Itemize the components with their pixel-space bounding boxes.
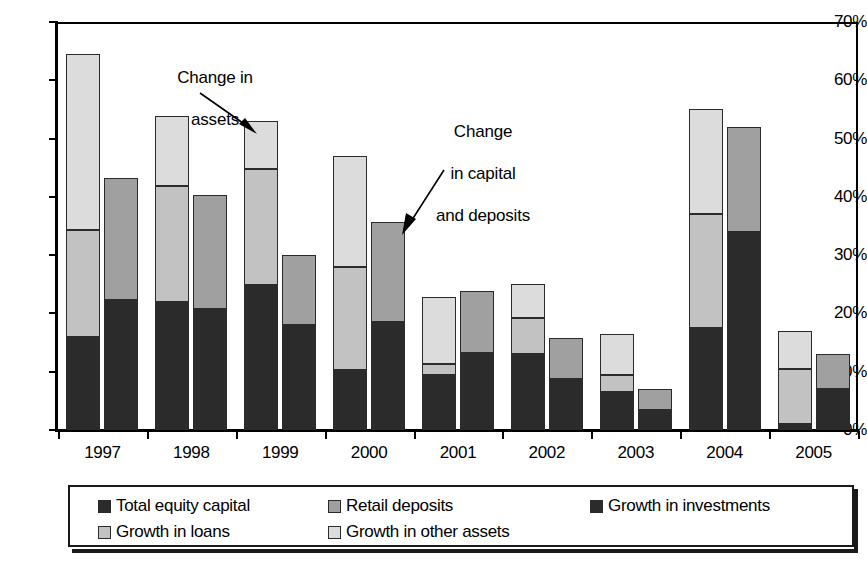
bar-1998-assets[interactable] [155,116,189,430]
bar-2004-assets[interactable] [689,109,723,430]
annotation-capital-arrow [392,165,482,245]
bar-segment-retail-deposits[interactable] [460,291,494,353]
bar-segment-retail-deposits[interactable] [104,178,138,300]
bar-segment-growth-in-other-assets[interactable] [689,109,723,214]
x-axis-tick-label: 2004 [680,444,770,462]
bar-segment-growth-in-loans[interactable] [333,267,367,370]
bar-segment-growth-in-loans[interactable] [600,375,634,392]
chart-root: 0%10%20%30%40%50%60%70% 1997199819992000… [0,0,867,561]
bar-segment-growth-in-loans[interactable] [66,230,100,337]
bar-segment-growth-in-loans[interactable] [689,214,723,328]
bar-segment-growth-in-other-assets[interactable] [422,297,456,364]
bar-segment-growth-in-loans[interactable] [778,369,812,424]
bar-segment-growth-in-investments[interactable] [600,392,634,430]
legend-swatch-icon [590,500,603,513]
x-axis-tick-label: 2003 [591,444,681,462]
bar-segment-growth-in-other-assets[interactable] [778,331,812,369]
plot-area: 0%10%20%30%40%50%60%70% 1997199819992000… [0,0,867,470]
x-axis-tick-mark [236,431,238,439]
y-axis-tick-mark [49,21,56,23]
bar-segment-growth-in-loans[interactable] [244,169,278,286]
y-axis-tick-mark [49,79,56,81]
x-axis-tick-label: 2005 [769,444,859,462]
bar-segment-growth-in-loans[interactable] [422,364,456,374]
bar-segment-growth-in-investments[interactable] [689,328,723,430]
bar-segment-growth-in-investments[interactable] [511,354,545,430]
bar-segment-growth-in-investments[interactable] [333,370,367,430]
bar-segment-retail-deposits[interactable] [727,127,761,232]
chart-legend: Total equity capitalRetail depositsGrowt… [68,485,854,547]
x-axis-tick-label: 1998 [146,444,236,462]
bar-1998-capital-deposits[interactable] [193,195,227,430]
legend-item-growth-in-loans[interactable]: Growth in loans [98,523,230,541]
legend-swatch-icon [98,526,111,539]
bar-segment-total-equity-capital[interactable] [371,322,405,430]
bar-segment-growth-in-other-assets[interactable] [600,334,634,375]
bar-2002-capital-deposits[interactable] [549,338,583,430]
bar-segment-growth-in-other-assets[interactable] [333,156,367,267]
bar-2001-capital-deposits[interactable] [460,291,494,430]
bar-segment-growth-in-investments[interactable] [244,285,278,430]
y-axis-tick-mark [49,312,56,314]
bar-segment-total-equity-capital[interactable] [460,353,494,430]
x-axis-tick-label: 1997 [57,444,147,462]
legend-swatch-icon [328,500,341,513]
y-axis-tick-label: 50% [819,130,867,147]
bar-2003-capital-deposits[interactable] [638,389,672,430]
bar-1999-capital-deposits[interactable] [282,255,316,430]
bar-segment-total-equity-capital[interactable] [193,309,227,430]
bar-segment-growth-in-investments[interactable] [155,302,189,430]
bar-segment-growth-in-loans[interactable] [155,186,189,301]
bar-segment-growth-in-other-assets[interactable] [511,284,545,317]
bar-1999-assets[interactable] [244,121,278,430]
bar-segment-total-equity-capital[interactable] [638,410,672,430]
bar-segment-total-equity-capital[interactable] [727,232,761,430]
y-axis-tick-mark [49,254,56,256]
bar-2001-assets[interactable] [422,297,456,430]
x-axis-tick-label: 2002 [502,444,592,462]
legend-item-growth-in-other-assets[interactable]: Growth in other assets [328,523,509,541]
legend-item-growth-in-investments[interactable]: Growth in investments [590,497,770,515]
bar-segment-growth-in-loans[interactable] [511,318,545,355]
bar-2000-assets[interactable] [333,156,367,430]
legend-label: Growth in investments [608,497,770,515]
x-axis-tick-mark [58,431,60,439]
bar-segment-growth-in-investments[interactable] [778,424,812,430]
y-axis-tick-mark [49,371,56,373]
x-axis-tick-mark [147,431,149,439]
bar-segment-retail-deposits[interactable] [638,389,672,410]
bar-segment-total-equity-capital[interactable] [282,325,316,430]
legend-item-total-equity-capital[interactable]: Total equity capital [98,497,250,515]
x-axis-tick-mark [502,431,504,439]
bar-segment-retail-deposits[interactable] [282,255,316,325]
y-axis-tick-label: 40% [819,188,867,205]
bar-segment-total-equity-capital[interactable] [549,379,583,430]
bar-1997-assets[interactable] [66,54,100,430]
x-axis-tick-label: 1999 [235,444,325,462]
y-axis-tick-mark [49,196,56,198]
x-axis-tick-mark [858,431,860,439]
y-axis-tick-label: 60% [819,71,867,88]
legend-swatch-icon [98,500,111,513]
bar-segment-retail-deposits[interactable] [816,354,850,389]
bar-2000-capital-deposits[interactable] [371,222,405,430]
bar-segment-growth-in-investments[interactable] [66,337,100,430]
bar-segment-retail-deposits[interactable] [193,195,227,309]
x-axis-tick-mark [414,431,416,439]
x-axis-tick-mark [680,431,682,439]
bar-segment-total-equity-capital[interactable] [816,389,850,430]
legend-swatch-icon [328,526,341,539]
bar-2002-assets[interactable] [511,284,545,430]
bar-2005-capital-deposits[interactable] [816,354,850,430]
bar-2005-assets[interactable] [778,331,812,430]
bar-segment-growth-in-investments[interactable] [422,375,456,430]
bar-segment-total-equity-capital[interactable] [104,300,138,430]
legend-label: Growth in other assets [346,523,509,541]
bar-1997-capital-deposits[interactable] [104,178,138,430]
bar-2004-capital-deposits[interactable] [727,127,761,430]
bar-2003-assets[interactable] [600,334,634,430]
legend-shadow-bottom [72,549,858,553]
bar-segment-growth-in-other-assets[interactable] [66,54,100,230]
bar-segment-retail-deposits[interactable] [549,338,583,379]
legend-item-retail-deposits[interactable]: Retail deposits [328,497,453,515]
